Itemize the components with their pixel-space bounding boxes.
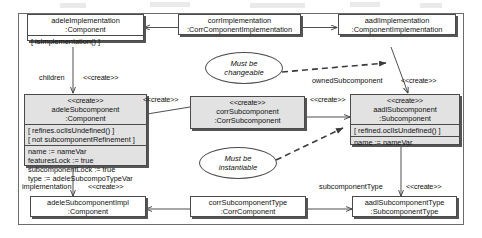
edge-label-corr-to-adele-sub-stereotype: <<create>> [143, 95, 178, 104]
edge-ownedsubcomponent [391, 47, 408, 93]
node-name: adeleSubcomponentImpl [33, 198, 143, 207]
node-adeleSubcomponent[interactable]: <<create>> adeleSubcomponent :Component … [24, 94, 147, 166]
node-header: <<create>> aadlSubcomponent :Subcomponen… [351, 95, 459, 124]
uml-transformation-diagram: adeleImplementation :Component [ isImple… [0, 0, 482, 238]
node-constraints: [ refined.oclIsUndefined() ] [351, 124, 459, 136]
node-type: :SubcomponentType [355, 207, 454, 216]
attribute: featuresLock := true [28, 156, 144, 165]
node-aadlSubcomponent[interactable]: <<create>> aadlSubcomponent :Subcomponen… [350, 94, 460, 145]
note-line-1: Must be [230, 59, 257, 68]
node-stereotype: <<create>> [353, 96, 457, 105]
edge-label-implementation-stereotype: <<create>> [88, 182, 123, 191]
constraint: [ refined.oclIsUndefined() ] [354, 126, 457, 135]
node-type: :Component [33, 207, 143, 216]
node-attributes: name := nameVar featuresLock := true sub… [25, 145, 146, 184]
node-name: aadlSubcomponentType [355, 198, 454, 207]
node-name: aadlSubcomponent [353, 105, 457, 114]
note-must-be-instantiable: Must be instantiable [199, 147, 277, 179]
node-header: aadlSubcomponentType :SubcomponentType [353, 197, 456, 217]
attribute: name := nameVar [354, 138, 457, 147]
node-corrSubcomponentType[interactable]: corrSubcomponentType :CorrComponent [190, 196, 306, 217]
note-line-1: Must be [224, 154, 251, 163]
note-line-2: instantiable [219, 163, 257, 172]
node-corrSubcomponent[interactable]: <<create>> corrSubcomponent :CorrSubcomp… [190, 96, 305, 129]
node-name: corrSubcomponent [193, 107, 302, 116]
node-type: :ComponentImplementation [341, 25, 453, 34]
node-aadlImplementation[interactable]: aadlImplementation :ComponentImplementat… [338, 14, 456, 35]
note-line-2: changeable [224, 68, 263, 77]
node-adeleImplementation[interactable]: adeleImplementation :Component [ isImple… [27, 14, 144, 41]
constraint: [ refines.oclIsUndefined() ] [28, 126, 144, 135]
edge-label-implementation: implementation [22, 182, 71, 191]
edge-label-corr-to-aadl-sub-stereotype: <<create>> [310, 95, 345, 104]
edge-label-subcomponent-type: subcomponentType [319, 182, 383, 191]
node-header: adeleSubcomponentImpl :Component [31, 197, 145, 217]
node-header: aadlImplementation :ComponentImplementat… [339, 15, 455, 35]
node-header: adeleImplementation :Component [28, 15, 143, 35]
constraint: [ not subcomponentRefinement ] [28, 135, 144, 144]
node-corrImplementation[interactable]: corrImplementation :CorrComponentImpleme… [178, 14, 301, 35]
note-link-instantiable [276, 128, 343, 160]
node-header: <<create>> corrSubcomponent :CorrSubcomp… [191, 97, 304, 126]
node-constraints: [ isImplementation() ] [28, 35, 143, 47]
edge-label-children: children [39, 73, 65, 82]
attribute: subcomponentLock := true [28, 165, 144, 174]
node-type: :Component [27, 114, 144, 123]
node-header: corrSubcomponentType :CorrComponent [191, 197, 305, 217]
edge-label-owned-subcomponent: ownedSubcomponent [312, 76, 383, 85]
node-adeleSubcomponentImpl[interactable]: adeleSubcomponentImpl :Component [30, 196, 146, 217]
edge-corrsub-to-adelesub [141, 107, 190, 115]
node-aadlSubcomponentType[interactable]: aadlSubcomponentType :SubcomponentType [352, 196, 457, 217]
node-name: aadlImplementation [341, 16, 453, 25]
attribute: name := nameVar [28, 147, 144, 156]
node-type: :CorrComponent [193, 207, 303, 216]
node-header: corrImplementation :CorrComponentImpleme… [179, 15, 300, 35]
node-name: adeleSubcomponent [27, 105, 144, 114]
node-name: corrImplementation [181, 16, 298, 25]
node-constraints: [ refines.oclIsUndefined() ] [ not subco… [25, 124, 146, 145]
node-type: :CorrComponentImplementation [181, 25, 298, 34]
edge-label-owned-subcomponent-stereotype: <<create>> [401, 76, 436, 85]
note-must-be-changeable: Must be changeable [205, 52, 283, 84]
edge-label-children-stereotype: <<create>> [83, 73, 118, 82]
edge-label-subcomponent-type-stereotype: <<create>> [406, 182, 441, 191]
node-name: corrSubcomponentType [193, 198, 303, 207]
node-stereotype: <<create>> [193, 98, 302, 107]
node-attributes: name := nameVar [351, 136, 459, 148]
node-name: adeleImplementation [30, 16, 141, 25]
node-type: :Subcomponent [353, 114, 457, 123]
node-type: :Component [30, 25, 141, 34]
node-header: <<create>> adeleSubcomponent :Component [25, 95, 146, 124]
node-type: :CorrSubcomponent [193, 116, 302, 125]
node-stereotype: <<create>> [27, 96, 144, 105]
note-link-changeable [282, 63, 386, 72]
constraint: [ isImplementation() ] [31, 37, 141, 46]
